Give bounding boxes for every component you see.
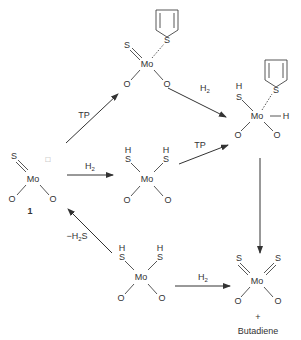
atom-o-br-left: O (234, 297, 241, 306)
product-plus: + (255, 313, 260, 322)
atom-s-br-left: S (236, 254, 242, 263)
atom-o-c1-right: O (49, 195, 56, 204)
atom-s-top: S (124, 41, 130, 50)
atom-s-br-right: S (275, 254, 281, 263)
reagent-h2-top: H2 (200, 84, 210, 97)
atom-o-top-left: O (123, 80, 130, 89)
atom-o-c1-left: O (8, 195, 15, 204)
atom-o-mid-right: O (164, 196, 171, 205)
thiophene-ring-right (265, 60, 287, 87)
reagent-tp-mid: TP (194, 141, 206, 150)
atom-s-bot-right: S (157, 253, 163, 262)
atom-h-hydride: H (283, 112, 290, 121)
atom-s-right: S (236, 93, 242, 102)
atom-h-right: H (236, 82, 243, 91)
reagent-h2-bottom: H2 (198, 273, 208, 286)
atom-s-c1: S (11, 152, 17, 161)
atom-o-bot-left: O (117, 294, 124, 303)
atom-o-top-right: O (163, 80, 170, 89)
atom-mo-br: Mo (251, 277, 264, 286)
atom-s-bot-left: S (119, 253, 125, 262)
arrow-h2-top (168, 88, 226, 117)
atom-mo-mid: Mo (141, 175, 154, 184)
atom-s-mid-left: S (125, 155, 131, 164)
atom-o-mid-left: O (123, 196, 130, 205)
reagent-minus-h2s: −H2S (66, 232, 87, 245)
product-butadiene: Butadiene (238, 327, 279, 336)
compound-1-label: 1 (27, 207, 32, 216)
atom-o-bot-right: O (158, 294, 165, 303)
atom-mo-top: Mo (141, 60, 154, 69)
atom-mo-bot: Mo (135, 273, 148, 282)
atom-o-right-left: O (234, 131, 241, 140)
reaction-scheme-lines (0, 0, 301, 340)
atom-o-br-right: O (274, 297, 281, 306)
atom-mo-right: Mo (251, 112, 264, 121)
reagent-tp-top: TP (78, 111, 90, 120)
arrow-tp-top (66, 94, 118, 143)
atom-o-right-right: O (273, 131, 280, 140)
thiophene-ring-top (156, 10, 178, 37)
atom-mo-c1: Mo (27, 175, 40, 184)
atom-s-thiophene-top: S (164, 36, 170, 45)
atom-s-thiophene-right: S (273, 86, 279, 95)
vacancy-icon: □ (46, 155, 51, 164)
atom-s-mid-right: S (163, 155, 169, 164)
reagent-h2-mid: H2 (85, 162, 95, 175)
